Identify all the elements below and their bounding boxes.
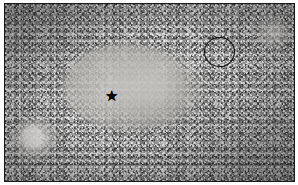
figure-panel: ★ bbox=[0, 0, 298, 185]
star-marker: ★ bbox=[105, 87, 118, 102]
circle-annotation bbox=[204, 37, 235, 68]
illumination-vignette bbox=[5, 4, 294, 181]
micrograph-plate: ★ bbox=[4, 3, 295, 182]
